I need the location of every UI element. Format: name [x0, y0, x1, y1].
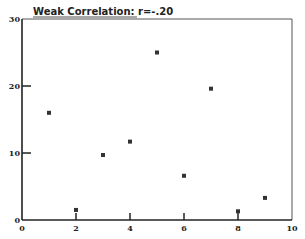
- data-point: [182, 174, 186, 178]
- data-point: [47, 111, 51, 115]
- x-tick-label: 6: [181, 223, 187, 233]
- y-axis-ticks: 0102030: [9, 14, 31, 225]
- data-point: [128, 140, 132, 144]
- data-point: [209, 87, 213, 91]
- chart-title: Weak Correlation: r=-.20: [33, 6, 173, 17]
- data-point: [74, 208, 78, 212]
- data-point: [263, 196, 267, 200]
- plot-frame: [22, 19, 292, 220]
- y-tick-label: 20: [9, 81, 21, 91]
- x-tick-label: 4: [127, 223, 133, 233]
- data-point: [236, 209, 240, 213]
- x-tick-label: 10: [286, 223, 298, 233]
- data-point: [155, 51, 159, 55]
- y-tick-label: 30: [9, 14, 21, 24]
- data-point: [101, 153, 105, 157]
- x-tick-label: 8: [235, 223, 241, 233]
- y-tick-label: 10: [9, 148, 21, 158]
- data-points: [47, 51, 267, 214]
- x-axis-ticks: 0246810: [19, 213, 298, 233]
- x-tick-label: 0: [19, 223, 25, 233]
- scatter-chart: Weak Correlation: r=-.20 0102030 0246810: [0, 0, 305, 239]
- x-tick-label: 2: [73, 223, 79, 233]
